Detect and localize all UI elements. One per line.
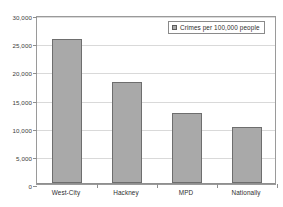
x-axis-category-label: MPD <box>179 189 194 196</box>
legend-swatch-icon <box>172 25 177 30</box>
y-axis-label: 20,000 <box>12 70 32 77</box>
y-axis-label: 25,000 <box>12 42 32 49</box>
bar-series <box>37 17 275 184</box>
bar-slot <box>157 17 217 184</box>
y-axis-label: 15,000 <box>12 98 32 105</box>
legend-entry-label: Crimes per 100,000 people <box>180 24 260 31</box>
y-axis-label: 30,000 <box>12 14 32 21</box>
y-axis-label: 5,000 <box>16 154 32 161</box>
bar[interactable] <box>172 113 202 183</box>
bar-chart: 05,00010,00015,00020,00025,00030,000 Wes… <box>0 0 283 207</box>
x-axis-line <box>37 183 275 184</box>
bar[interactable] <box>112 82 142 183</box>
x-axis-tick <box>277 184 278 188</box>
bar[interactable] <box>52 39 82 183</box>
x-axis-tick <box>157 184 158 188</box>
bar[interactable] <box>232 127 262 183</box>
x-axis-category-label: West-City <box>52 189 80 196</box>
bar-slot <box>97 17 157 184</box>
y-axis-tick <box>33 186 37 187</box>
x-axis-tick <box>97 184 98 188</box>
bar-slot <box>217 17 277 184</box>
y-axis-label: 10,000 <box>12 126 32 133</box>
y-axis-label: 0 <box>28 183 32 190</box>
bar-slot <box>37 17 97 184</box>
x-axis-category-label: Hackney <box>113 189 139 196</box>
x-axis-tick <box>217 184 218 188</box>
plot-area: 05,00010,00015,00020,00025,00030,000 <box>36 16 276 185</box>
chart-legend: Crimes per 100,000 people <box>168 21 265 34</box>
x-axis-category-label: Nationally <box>231 189 260 196</box>
